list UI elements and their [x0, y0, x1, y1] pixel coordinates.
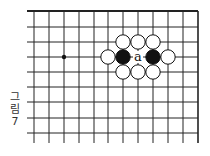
point-label-a: a — [134, 49, 142, 64]
point-labels: a — [133, 49, 143, 64]
caption-number: 7 — [8, 116, 22, 128]
go-board-diagram: a — [0, 0, 210, 156]
white-stone-icon — [161, 50, 175, 64]
white-stone-icon — [101, 50, 115, 64]
star-point-icon — [62, 55, 66, 59]
black-stone-icon — [146, 50, 160, 64]
white-stone-icon — [116, 65, 130, 79]
white-stone-icon — [146, 65, 160, 79]
white-stone-icon — [131, 65, 145, 79]
white-stone-icon — [116, 35, 130, 49]
white-stone-icon — [131, 35, 145, 49]
white-stone-icon — [146, 35, 160, 49]
figure-caption: 그 림 7 — [8, 92, 22, 128]
board-grid — [27, 11, 198, 143]
star-points — [62, 55, 66, 59]
black-stone-icon — [116, 50, 130, 64]
